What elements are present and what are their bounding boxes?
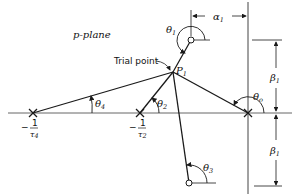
theta1-label: θ1 <box>166 24 176 37</box>
pole-tau2-label: − 1 τ2 <box>129 118 147 140</box>
svg-text:−: − <box>129 122 137 132</box>
root-locus-diagram: p-plane Trial point P1 θ1 θ2 θ3 θ4 θo α1… <box>0 0 296 196</box>
svg-text:−: − <box>21 122 29 132</box>
zero-upper-marker <box>188 37 194 43</box>
vector-from-zero-lower <box>173 72 189 183</box>
pole-tau4-label: − 1 τ4 <box>21 118 39 140</box>
theta4-label: θ4 <box>95 98 105 111</box>
svg-text:τ2: τ2 <box>138 130 147 140</box>
svg-text:1: 1 <box>32 118 38 128</box>
theta0-label: θo <box>253 91 263 104</box>
alpha1-label: α1 <box>213 11 224 24</box>
svg-text:1: 1 <box>140 118 146 128</box>
vector-from-pole-origin <box>173 72 248 113</box>
theta4-arc <box>91 96 92 113</box>
svg-text:τ4: τ4 <box>30 130 39 140</box>
zero-lower-marker <box>186 180 192 186</box>
trial-point-label: Trial point <box>113 56 159 66</box>
beta1-lower-label: β1 <box>269 145 280 158</box>
beta1-upper-label: β1 <box>269 72 280 85</box>
plane-label: p-plane <box>73 29 111 40</box>
